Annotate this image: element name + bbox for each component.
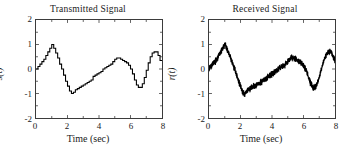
x-axis-label: Time (sec) xyxy=(0,133,176,144)
plot-area-received xyxy=(208,19,336,119)
x-tick-label: 2 xyxy=(60,121,74,131)
x-tick-label: 0 xyxy=(28,121,42,131)
y-tick-label: 2 xyxy=(16,14,32,24)
x-tick-labels: 0 2 4 6 8 xyxy=(208,120,336,134)
tick-marks xyxy=(209,20,335,118)
x-tick-label: 8 xyxy=(329,121,343,131)
panel-title: Transmitted Signal xyxy=(0,4,176,14)
panel-received: Received Signal r(t) 2 1 0 -1 -2 xyxy=(177,0,353,157)
x-tick-label: 4 xyxy=(265,121,279,131)
signal-trace-received xyxy=(209,43,335,97)
y-tick-labels: 2 1 0 -1 -2 xyxy=(14,19,32,119)
panel-title: Received Signal xyxy=(177,4,353,14)
y-tick-labels: 2 1 0 -1 -2 xyxy=(187,19,205,119)
y-axis-label: s(t) xyxy=(0,68,4,81)
y-tick-label: 0 xyxy=(189,64,205,74)
y-tick-label: -1 xyxy=(189,89,205,99)
x-tick-label: 4 xyxy=(92,121,106,131)
signal-trace-transmitted xyxy=(36,45,162,94)
x-axis-label: Time (sec) xyxy=(173,133,349,144)
y-tick-label: 0 xyxy=(16,64,32,74)
figure-container: Transmitted Signal s(t) 2 1 0 -1 -2 xyxy=(0,0,353,157)
x-tick-label: 8 xyxy=(156,121,170,131)
y-tick-label: 1 xyxy=(16,39,32,49)
plot-svg-received xyxy=(209,20,335,118)
y-tick-label: -1 xyxy=(16,89,32,99)
x-tick-label: 0 xyxy=(201,121,215,131)
panel-transmitted: Transmitted Signal s(t) 2 1 0 -1 -2 xyxy=(0,0,176,157)
y-axis-label: r(t) xyxy=(167,68,177,81)
plot-area-transmitted xyxy=(35,19,163,119)
tick-marks xyxy=(36,20,162,118)
x-tick-label: 6 xyxy=(124,121,138,131)
x-tick-label: 6 xyxy=(297,121,311,131)
plot-svg-transmitted xyxy=(36,20,162,118)
y-tick-label: 1 xyxy=(189,39,205,49)
y-tick-label: 2 xyxy=(189,14,205,24)
x-tick-labels: 0 2 4 6 8 xyxy=(35,120,163,134)
x-tick-label: 2 xyxy=(233,121,247,131)
